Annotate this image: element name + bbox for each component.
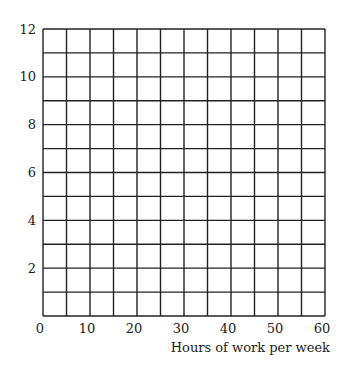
x-tick-label: 20 (126, 321, 143, 336)
grid-lines (43, 29, 325, 316)
y-tick-label: 6 (28, 165, 36, 180)
blank-grid-chart: 24681012 0102030405060 Hours of work per… (0, 0, 348, 380)
x-tick-label: 40 (220, 321, 237, 336)
x-tick-label: 0 (36, 321, 44, 336)
x-tick-label: 60 (314, 321, 331, 336)
y-tick-label: 4 (28, 213, 36, 228)
y-tick-label: 8 (28, 117, 36, 132)
y-tick-label: 10 (19, 69, 36, 84)
y-tick-label: 2 (28, 261, 36, 276)
x-axis-tick-labels: 0102030405060 (36, 321, 330, 336)
x-tick-label: 50 (267, 321, 284, 336)
y-axis-tick-labels: 24681012 (19, 22, 36, 276)
x-tick-label: 10 (79, 321, 96, 336)
y-tick-label: 12 (19, 22, 36, 37)
x-axis-label: Hours of work per week (171, 340, 330, 355)
x-tick-label: 30 (173, 321, 190, 336)
